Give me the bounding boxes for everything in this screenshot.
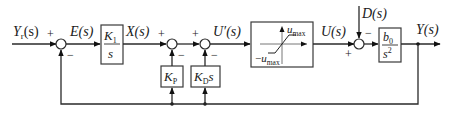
block-diagram: Yr(s) + − E(s) K1 s X(s) + − + − U′(s) K… <box>0 0 451 114</box>
sum2-plus-sign: + <box>158 27 165 41</box>
label-y: Y(s) <box>416 22 439 38</box>
sum1-minus-sign: − <box>67 48 74 62</box>
label-yr: Yr(s) <box>13 24 39 41</box>
diagram-svg: Yr(s) + − E(s) K1 s X(s) + − + − U′(s) K… <box>0 0 451 114</box>
label-uprime: U′(s) <box>213 24 241 40</box>
sum3-plus-sign: + <box>192 27 199 41</box>
summing-junction-1 <box>56 39 66 49</box>
label-x: X(s) <box>125 24 150 40</box>
summing-junction-4 <box>354 39 364 49</box>
summing-junction-3 <box>200 39 210 49</box>
sum4-plus-sign: + <box>345 47 352 61</box>
label-u: U(s) <box>321 24 346 40</box>
summing-junction-2 <box>167 39 177 49</box>
label-e: E(s) <box>69 24 94 40</box>
sum2-minus-sign: − <box>178 48 185 62</box>
integrator-denominator: s <box>108 46 113 61</box>
sum1-plus-sign: + <box>47 27 54 41</box>
label-d: D(s) <box>361 6 387 22</box>
sum4-minus-sign: − <box>365 26 372 40</box>
sum3-minus-sign: − <box>211 48 218 62</box>
